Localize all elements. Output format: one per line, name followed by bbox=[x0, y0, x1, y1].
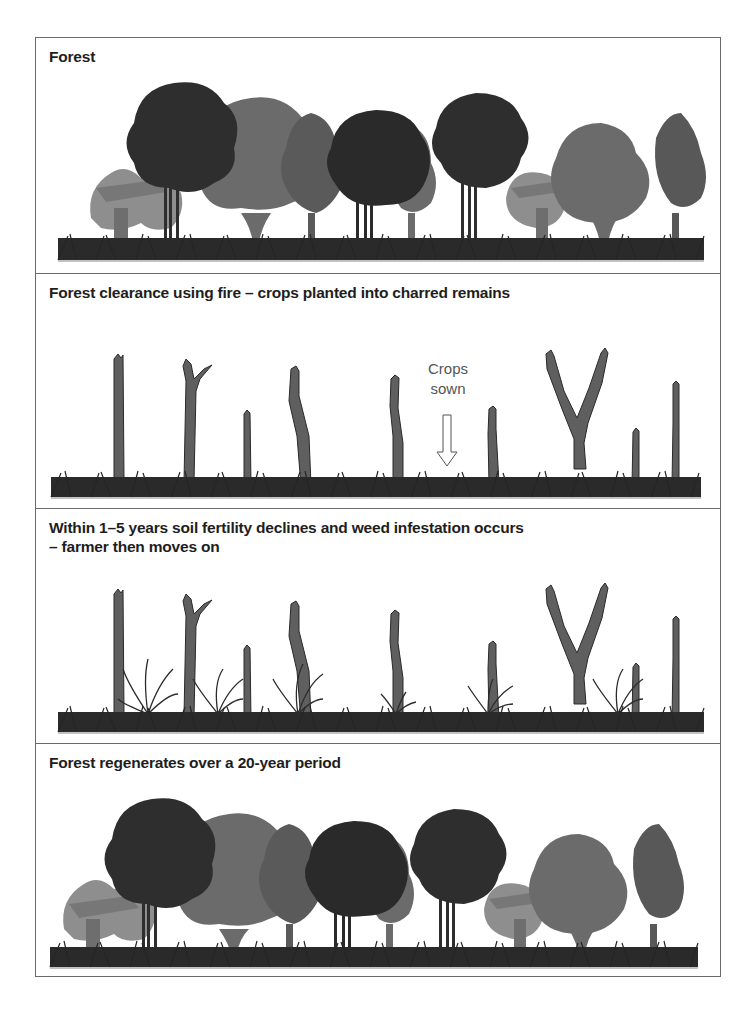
dark-tree-3 bbox=[432, 93, 529, 248]
charred-stumps bbox=[114, 348, 679, 486]
panel-decline: Within 1–5 years soil fertility declines… bbox=[36, 508, 720, 743]
dark-tree-3 bbox=[410, 809, 507, 954]
grass-strip bbox=[58, 234, 704, 261]
grass-strip bbox=[58, 706, 704, 733]
panel-clearance: Forest clearance using fire – crops plan… bbox=[36, 273, 720, 508]
charred-stumps bbox=[114, 583, 679, 721]
charred-stumps-illustration bbox=[36, 274, 722, 509]
regenerated-forest-illustration bbox=[36, 744, 722, 979]
shifting-cultivation-diagram: Forest bbox=[35, 37, 721, 977]
mid-tree-5 bbox=[655, 113, 706, 248]
crops-sown-arrow bbox=[437, 415, 457, 466]
mid-tree-4 bbox=[551, 123, 649, 248]
mid-tree-5 bbox=[633, 824, 684, 954]
mid-tree-4 bbox=[529, 834, 627, 954]
crops-sown-label: Crops sown bbox=[418, 359, 478, 399]
grass-strip bbox=[51, 471, 701, 498]
panel-regeneration: Forest regenerates over a 20-year period bbox=[36, 743, 720, 978]
stumps-weeds-illustration bbox=[36, 509, 722, 744]
weeds bbox=[118, 659, 643, 714]
panel-forest: Forest bbox=[36, 38, 720, 273]
forest-illustration bbox=[36, 38, 722, 273]
